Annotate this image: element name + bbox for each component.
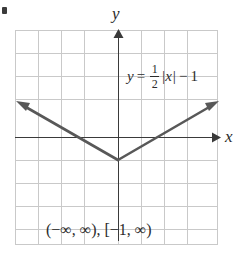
equation-fraction-one-half: 1 2 bbox=[150, 63, 159, 90]
figure-container: y x y = 1 2 |x| − 1 (−∞, ∞), [−1, ∞) bbox=[0, 0, 244, 258]
domain-range-annotation: (−∞, ∞), [−1, ∞) bbox=[46, 222, 152, 238]
equation-absolute-value-term: |x| bbox=[161, 69, 176, 84]
equation-constant: 1 bbox=[191, 69, 199, 84]
equation-equals-sign: = bbox=[137, 69, 145, 84]
equation-annotation: y = 1 2 |x| − 1 bbox=[127, 63, 198, 90]
coordinate-plane bbox=[0, 0, 244, 258]
equation-lhs: y bbox=[127, 69, 134, 84]
fraction-numerator: 1 bbox=[151, 63, 159, 76]
equation-minus-sign: − bbox=[179, 69, 187, 84]
fraction-denominator: 2 bbox=[151, 77, 159, 90]
y-axis bbox=[114, 29, 124, 241]
x-axis-label: x bbox=[225, 128, 233, 145]
y-axis-label: y bbox=[112, 5, 120, 22]
absolute-value-curve bbox=[16, 101, 219, 160]
